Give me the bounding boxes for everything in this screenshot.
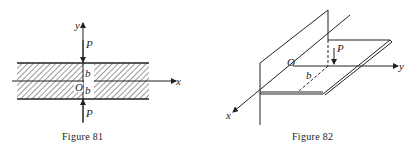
half-width-label-top: b: [85, 67, 91, 79]
origin-label: O: [287, 56, 295, 68]
load-label-top: P: [85, 38, 93, 50]
figures-canvas: y x P P b b O Figure 81 O b P y x Figure…: [0, 0, 414, 148]
hidden-edge-diagonal: [299, 66, 328, 91]
figure-81-caption: Figure 81: [62, 131, 103, 142]
y-axis-label: y: [74, 19, 80, 31]
x-axis-label: x: [225, 109, 231, 121]
y-axis-label: y: [398, 60, 404, 72]
origin-label: O: [75, 81, 83, 93]
half-width-label-bottom: b: [85, 84, 91, 96]
figure-82: [233, 10, 398, 125]
x-axis-label: x: [175, 75, 181, 87]
figure-81: y x P P b b O Figure 81: [12, 19, 181, 142]
distance-label: b: [306, 69, 312, 81]
load-label-bottom: P: [85, 107, 93, 119]
load-label: P: [336, 42, 344, 54]
figure-82-caption: Figure 82: [292, 131, 333, 142]
